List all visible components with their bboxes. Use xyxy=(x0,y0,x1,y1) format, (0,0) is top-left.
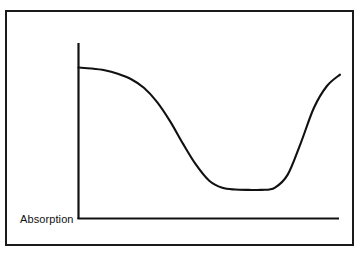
figure-root: Absorption xyxy=(0,0,364,255)
y-axis-label: Absorption xyxy=(20,211,78,227)
